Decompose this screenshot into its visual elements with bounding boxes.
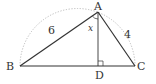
side-AB: [20, 12, 98, 66]
label-angle-x: x: [88, 23, 93, 33]
right-angle-mark: [98, 61, 103, 66]
label-A: A: [93, 0, 103, 13]
semicircle-arc: [20, 8, 135, 66]
label-D: D: [95, 69, 104, 82]
angle-x-arc: [92, 16, 98, 19]
label-AC-length: 4: [124, 28, 131, 41]
label-AB-length: 6: [48, 24, 55, 37]
label-C: C: [137, 60, 145, 73]
diagram-canvas: A B C D 6 4 x: [0, 0, 156, 84]
label-B: B: [6, 60, 14, 73]
